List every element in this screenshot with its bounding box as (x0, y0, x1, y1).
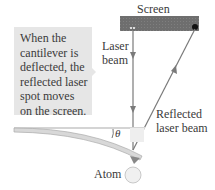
callout-line: on the screen. (20, 104, 86, 119)
reflected-beam-label-1: Reflected (156, 108, 202, 121)
arrow-down-icon (130, 52, 136, 59)
screen-label: Screen (137, 3, 170, 16)
arrow-up-icon (171, 65, 177, 74)
arrow-down-icon (130, 106, 136, 113)
atom-label: Atom (94, 168, 121, 181)
callout-line: cantilever is (20, 46, 86, 61)
laser-beam-label-1: Laser (102, 40, 129, 53)
callout-line: reflected laser (20, 75, 86, 90)
atom (125, 167, 141, 183)
cantilever (14, 128, 142, 160)
reflected-beam-label-2: laser beam (156, 122, 208, 135)
callout-box: When the cantilever is deflected, the re… (14, 27, 92, 115)
laser-beam-label-2: beam (102, 54, 128, 67)
angle-arc (112, 129, 113, 138)
theta-label: θ (115, 127, 120, 140)
callout-pointer (92, 68, 96, 76)
callout-line: deflected, the (20, 60, 86, 75)
screen-texture (120, 16, 199, 31)
callout-line: When the (20, 31, 86, 46)
original-spot (130, 27, 132, 29)
callout-line: spot moves (20, 89, 86, 104)
